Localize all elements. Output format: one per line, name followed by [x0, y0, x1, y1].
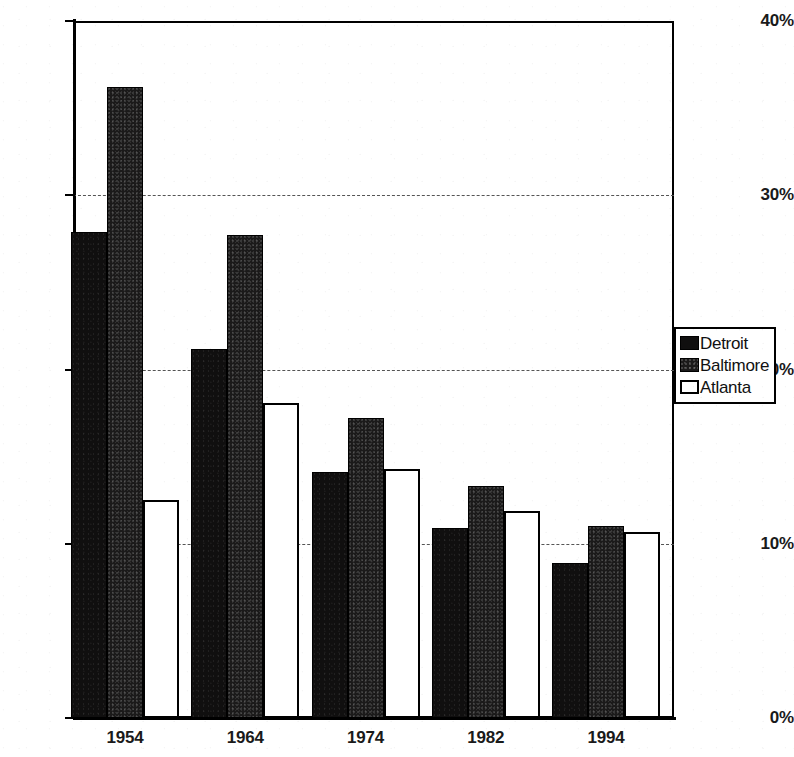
legend: DetroitBaltimoreAtlanta [674, 327, 776, 404]
bar-atlanta-1994 [624, 532, 660, 718]
bar-baltimore-1954 [107, 87, 143, 718]
bar-atlanta-1974 [384, 469, 420, 718]
gridline-30 [73, 195, 674, 196]
bar-baltimore-1994 [588, 526, 624, 718]
bar-detroit-1994 [552, 563, 588, 718]
bar-chart: 0%10%20%30%40% 19541964197419821994 Detr… [0, 0, 794, 757]
y-axis-label: 30% [732, 185, 794, 205]
y-axis-label: 0% [732, 708, 794, 728]
x-axis-label-1974: 1974 [347, 728, 384, 748]
bar-baltimore-1964 [227, 235, 263, 718]
bar-detroit-1964 [191, 349, 227, 718]
legend-label-baltimore: Baltimore [700, 357, 769, 374]
bar-detroit-1954 [71, 232, 107, 718]
bar-baltimore-1982 [468, 486, 504, 718]
bar-atlanta-1964 [263, 403, 299, 718]
gridline-20 [73, 370, 674, 371]
bar-detroit-1974 [312, 472, 348, 718]
legend-label-atlanta: Atlanta [700, 379, 751, 396]
y-axis-label: 10% [732, 534, 794, 554]
x-axis-label-1964: 1964 [227, 728, 264, 748]
legend-swatch-atlanta [680, 380, 699, 394]
bar-detroit-1982 [432, 528, 468, 718]
bar-atlanta-1982 [504, 511, 540, 718]
legend-item-atlanta: Atlanta [680, 376, 770, 398]
legend-item-baltimore: Baltimore [680, 354, 770, 376]
legend-label-detroit: Detroit [700, 335, 748, 352]
legend-swatch-baltimore [680, 358, 699, 372]
bar-atlanta-1954 [143, 500, 179, 718]
legend-item-detroit: Detroit [680, 332, 770, 354]
bar-baltimore-1974 [348, 418, 384, 718]
legend-swatch-detroit [680, 336, 699, 350]
y-tick-40 [65, 20, 75, 22]
x-axis-label-1954: 1954 [107, 728, 144, 748]
y-axis-label: 40% [732, 11, 794, 31]
x-axis-label-1982: 1982 [467, 728, 504, 748]
y-tick-30 [65, 194, 75, 196]
x-axis-label-1994: 1994 [587, 728, 624, 748]
